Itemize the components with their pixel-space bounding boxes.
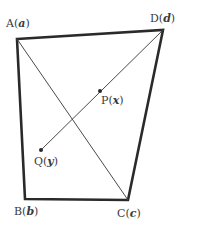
label-p-var: x [113, 94, 120, 107]
label-d-var: d [163, 12, 171, 25]
label-p-name: P [101, 94, 108, 107]
label-d-name: D [150, 12, 159, 25]
label-b-var: b [26, 205, 34, 218]
quadrilateral-abcd [17, 30, 163, 200]
segment-dq [41, 30, 163, 150]
point-p-dot [98, 89, 102, 93]
label-b: B(b) [14, 206, 38, 217]
label-p: P(x) [101, 95, 124, 106]
label-q: Q(y) [34, 156, 58, 167]
label-a-name: A [6, 17, 14, 30]
label-a: A(a) [6, 18, 30, 29]
label-c: C(c) [117, 208, 141, 219]
label-d: D(d) [150, 13, 175, 24]
label-a-var: a [18, 17, 25, 30]
label-b-name: B [14, 205, 22, 218]
label-q-var: y [47, 155, 53, 168]
point-q-dot [39, 148, 43, 152]
quadrilateral-diagram [0, 0, 197, 234]
label-q-name: Q [34, 155, 43, 168]
label-c-name: C [117, 207, 125, 220]
label-c-var: c [130, 207, 137, 220]
